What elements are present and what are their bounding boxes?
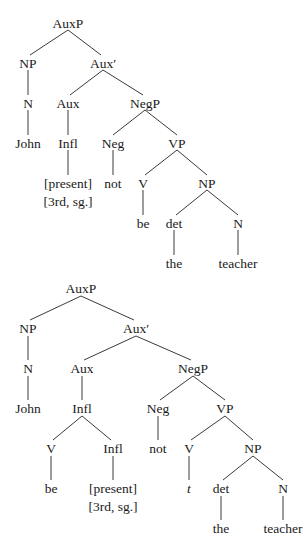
tree-node-v: V [138,176,148,191]
tree-node-vp: VP [216,401,233,416]
tree-node-be: be [45,481,58,496]
tree-node-the: the [213,521,230,536]
tree-node-vp: VP [168,136,185,151]
tree-node-infl: Infl [72,401,92,416]
tree-branch [191,416,225,440]
tree-branch [70,70,103,95]
tree-node-infl2: Infl [103,441,123,456]
tree-branch [207,190,238,215]
tree-node-n: N [23,96,33,111]
tree-branch [177,150,207,175]
tree-node-present: [present] [89,481,137,496]
tree-branch [253,456,283,480]
tree-branch [30,296,81,320]
tree-node-thirdsg: [3rd, sg.] [88,499,137,514]
tree-node-np2: NP [244,441,261,456]
tree-node-auxp: AuxP [66,281,97,296]
tree-node-det: det [166,216,183,231]
tree-node-teacher: teacher [264,521,303,536]
tree-branch [84,336,136,360]
tree-branch [81,296,134,320]
tree-node-be: be [137,216,150,231]
tree-branch [223,456,253,480]
syntax-tree-diagram: AuxPNPAux′NAuxNegPJohnInflNegVP[present]… [0,0,306,550]
syntax-tree-before-movement: AuxPNPAux′NAuxNegPJohnInflNegVP[present]… [15,16,258,271]
tree-branch [145,110,177,135]
tree-branch [30,30,68,55]
tree-node-aux: Aux [70,361,93,376]
tree-node-auxbar: Aux′ [90,56,116,71]
tree-node-auxbar: Aux′ [123,321,149,336]
tree-node-negp: NegP [130,96,160,111]
tree-node-not: not [149,441,167,456]
tree-node-neg: Neg [102,136,125,151]
tree-node-np2: NP [198,176,215,191]
tree-node-det: det [213,481,230,496]
tree-node-v2: V [184,441,194,456]
tree-node-thirdsg: [3rd, sg.] [43,194,92,209]
tree-branch [160,376,193,400]
tree-node-the: the [166,256,183,271]
tree-node-present: [present] [44,176,92,191]
tree-branch [82,416,111,440]
tree-node-neg: Neg [147,401,170,416]
tree-branch [176,190,207,215]
tree-branch [103,70,143,95]
tree-node-teacher: teacher [219,256,258,271]
tree-branch [53,416,82,440]
tree-node-aux: Aux [56,96,79,111]
tree-branch [145,150,177,175]
tree-branch [68,30,101,55]
tree-node-not: not [104,176,122,191]
tree-branch [193,376,225,400]
tree-branch [113,110,145,135]
tree-node-auxp: AuxP [53,16,84,31]
syntax-tree-after-movement: AuxPNPAux′NAuxNegPJohnInflNegVPVInflnotV… [15,281,303,536]
tree-node-n2: N [278,481,288,496]
tree-node-n2: N [233,216,243,231]
tree-node-infl: Infl [58,136,78,151]
tree-branch [225,416,253,440]
tree-node-np: NP [19,321,36,336]
tree-node-negp: NegP [178,361,208,376]
tree-node-trace: t [187,481,192,496]
tree-node-v: V [46,441,56,456]
tree-node-john: John [15,401,41,416]
tree-node-n: N [23,361,33,376]
tree-branch [136,336,191,360]
tree-node-john: John [15,136,41,151]
tree-node-np: NP [19,56,36,71]
